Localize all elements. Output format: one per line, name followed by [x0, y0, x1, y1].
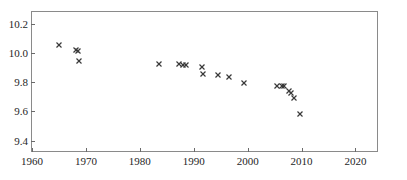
x-tick-label: 2010 [272, 156, 332, 167]
data-point-marker [199, 64, 206, 71]
y-tick-mark [31, 24, 35, 25]
y-tick-label: 10.2 [0, 18, 28, 29]
y-tick-label: 9.6 [0, 106, 28, 117]
data-point-marker [291, 94, 298, 101]
data-point-marker [297, 111, 304, 118]
x-tick-label: 1970 [56, 156, 116, 167]
data-point-marker [281, 82, 288, 89]
data-point-marker [286, 87, 293, 94]
x-tick-mark [248, 148, 249, 152]
data-point-marker [279, 82, 286, 89]
x-tick-mark [140, 148, 141, 152]
data-point-marker [55, 42, 62, 49]
x-tick-mark [32, 148, 33, 152]
x-tick-label: 1980 [110, 156, 170, 167]
data-point-marker [180, 61, 187, 68]
data-point-marker [199, 71, 206, 78]
data-point-marker [288, 89, 295, 96]
scatter-chart: 9.49.69.810.010.2 1960197019801990200020… [0, 0, 407, 180]
x-tick-mark [86, 148, 87, 152]
data-point-marker [182, 61, 189, 68]
y-tick-mark [31, 111, 35, 112]
data-point-marker [75, 58, 82, 65]
x-tick-mark [194, 148, 195, 152]
y-tick-mark [31, 53, 35, 54]
x-tick-label: 2020 [325, 156, 385, 167]
y-tick-label: 9.8 [0, 77, 28, 88]
y-tick-mark [31, 82, 35, 83]
data-point-marker [215, 72, 222, 79]
y-tick-label: 9.4 [0, 135, 28, 146]
y-tick-label: 10.0 [0, 47, 28, 58]
data-point-marker [175, 61, 182, 68]
x-tick-label: 1990 [164, 156, 224, 167]
data-point-marker [72, 46, 79, 53]
data-point-marker [74, 48, 81, 55]
data-point-marker [241, 80, 248, 87]
data-point-marker [226, 73, 233, 80]
y-tick-mark [31, 141, 35, 142]
data-point-marker [274, 83, 281, 90]
x-tick-label: 1960 [2, 156, 62, 167]
x-tick-label: 2000 [218, 156, 278, 167]
plot-area [31, 11, 378, 152]
data-point-marker [156, 61, 163, 68]
x-tick-mark [355, 148, 356, 152]
x-tick-mark [302, 148, 303, 152]
